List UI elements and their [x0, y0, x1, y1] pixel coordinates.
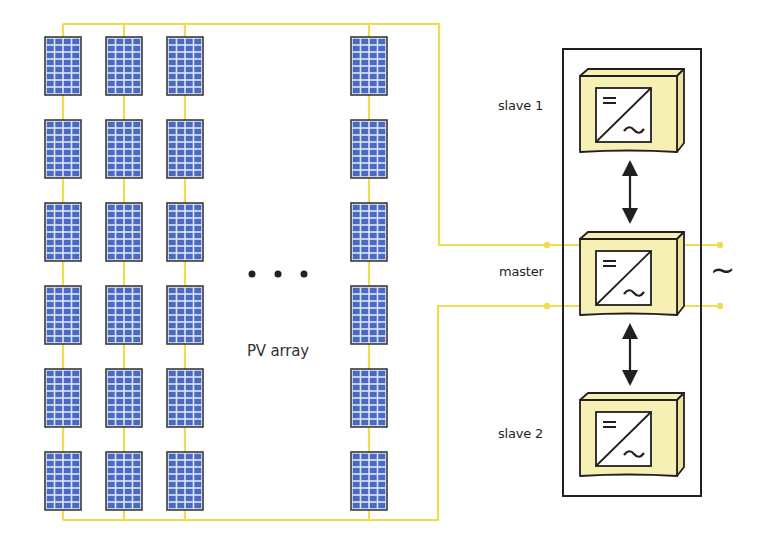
pv-module	[351, 37, 387, 95]
pv-module	[45, 203, 81, 261]
pv-module	[45, 120, 81, 178]
pv-modules	[45, 37, 387, 510]
pv-module	[351, 203, 387, 261]
pv-module	[167, 369, 203, 427]
ac-output-symbol: ~	[710, 255, 735, 285]
master-label: master	[499, 264, 544, 279]
comm-arrow-slave1-master	[622, 160, 638, 224]
ellipsis-icon	[249, 271, 308, 278]
pv-master-slave-diagram	[0, 0, 770, 534]
pv-module	[351, 286, 387, 344]
inverter-master	[580, 232, 684, 315]
pv-module	[106, 369, 142, 427]
pv-module	[45, 286, 81, 344]
pv-module	[106, 286, 142, 344]
slave-1-label: slave 1	[498, 98, 543, 113]
pv-module	[45, 37, 81, 95]
comm-arrow-master-slave2	[622, 323, 638, 386]
pv-module	[106, 120, 142, 178]
pv-module	[106, 452, 142, 510]
inverter-slave-1	[580, 69, 684, 152]
pv-module	[167, 203, 203, 261]
pv-module	[167, 452, 203, 510]
slave-2-label: slave 2	[498, 426, 543, 441]
pv-module	[351, 452, 387, 510]
pv-module	[351, 369, 387, 427]
pv-module	[167, 37, 203, 95]
pv-module	[106, 37, 142, 95]
pv-module	[351, 120, 387, 178]
inverter-slave-2	[580, 393, 684, 476]
pv-module	[167, 120, 203, 178]
pv-module	[106, 203, 142, 261]
pv-module	[167, 286, 203, 344]
pv-module	[45, 452, 81, 510]
pv-module	[45, 369, 81, 427]
pv-array-label: PV array	[247, 342, 309, 360]
